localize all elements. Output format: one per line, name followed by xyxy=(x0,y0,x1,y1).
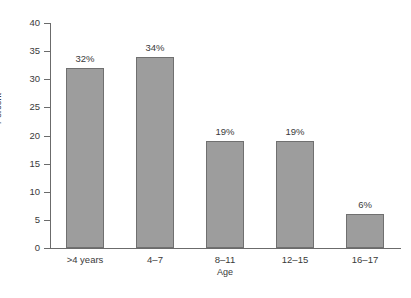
bar xyxy=(136,57,174,248)
y-axis-tick-label: 40 xyxy=(14,18,40,28)
x-axis-tick-label: 8–11 xyxy=(185,254,265,265)
y-axis-tick-label: 5 xyxy=(14,215,40,225)
bar xyxy=(206,141,244,248)
x-axis-tick-label: >4 years xyxy=(45,254,125,265)
bar-value-label: 32% xyxy=(55,54,115,64)
bar-value-label: 19% xyxy=(265,127,325,137)
y-axis-tick xyxy=(44,248,50,249)
y-axis-tick-label: 30 xyxy=(14,74,40,84)
x-axis-tick-label: 4–7 xyxy=(115,254,195,265)
y-axis-tick-label: 35 xyxy=(14,46,40,56)
x-axis-tick-label: 16–17 xyxy=(325,254,405,265)
y-axis-tick-label: 15 xyxy=(14,159,40,169)
bar xyxy=(276,141,314,248)
x-axis-line xyxy=(50,248,401,249)
x-axis-tick-label: 12–15 xyxy=(255,254,335,265)
y-axis-tick-label: 0 xyxy=(14,243,40,253)
bar xyxy=(346,214,384,248)
bar-value-label: 19% xyxy=(195,127,255,137)
y-axis-tick-label: 20 xyxy=(14,131,40,141)
bar-value-label: 34% xyxy=(125,43,185,53)
y-axis-title: Percent xyxy=(0,93,3,124)
bar-value-label: 6% xyxy=(335,200,395,210)
y-axis-tick-label: 25 xyxy=(14,102,40,112)
y-axis-tick-label: 10 xyxy=(14,187,40,197)
x-axis-title: Age xyxy=(50,267,400,277)
bar-chart: Percent 0510152025303540 >4 years4–78–11… xyxy=(0,0,411,298)
bar xyxy=(66,68,104,248)
